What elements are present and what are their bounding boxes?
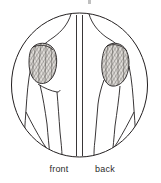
outer-arm-contour-front (24, 67, 31, 150)
deltoid-muscle-front (26, 40, 62, 88)
scapula-crease-back (98, 80, 104, 104)
anatomy-illustration (0, 0, 161, 183)
circle-frame (12, 13, 148, 157)
deltoid-hatching-back (99, 39, 135, 89)
frame-circle (12, 13, 148, 157)
outer-arm-contour-back (129, 66, 136, 150)
anatomy-figure: front back (0, 0, 161, 183)
view-divider (77, 15, 83, 156)
torso-line-front (57, 92, 62, 157)
forearm-line-back (108, 112, 134, 157)
view-label-front: front (38, 164, 80, 174)
torso-line-back (94, 104, 98, 157)
deltoid-muscle-back (99, 39, 135, 89)
view-label-back: back (84, 164, 126, 174)
